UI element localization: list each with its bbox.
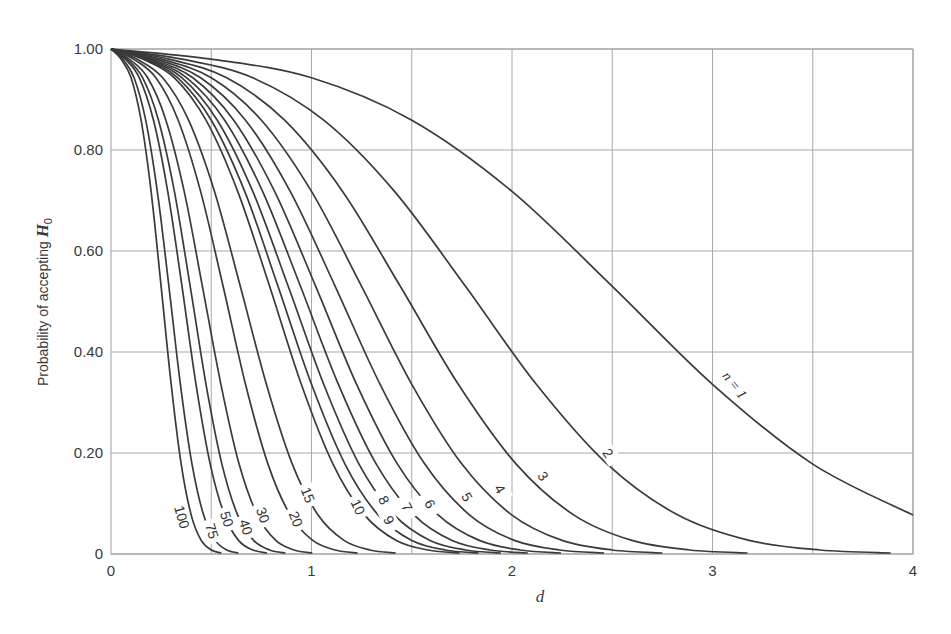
- curve-label-n-1: n = 1: [719, 369, 750, 402]
- x-tick-label: 0: [107, 562, 115, 579]
- y-tick-label: 1.00: [74, 40, 103, 57]
- oc-curve-n-9: [111, 49, 479, 553]
- y-tick-label: 0.60: [74, 242, 103, 259]
- curve-labels: n = 12345678910152030405075100: [171, 369, 750, 545]
- oc-curve-n-3: [111, 49, 748, 553]
- y-tick-label: 0.80: [74, 141, 103, 158]
- x-tick-label: 4: [909, 562, 917, 579]
- oc-curve-chart: n = 12345678910152030405075100 0123400.2…: [0, 0, 951, 634]
- y-axis-title: Probability of accepting H0: [33, 218, 54, 386]
- oc-curve-n-6: [111, 49, 561, 553]
- grid: [111, 49, 913, 554]
- x-tick-label: 3: [708, 562, 716, 579]
- oc-curve-n-7: [111, 49, 528, 553]
- oc-curve-n-20: [111, 49, 358, 553]
- x-tick-label: 2: [508, 562, 516, 579]
- oc-curve-n-40: [111, 49, 285, 553]
- y-tick-label: 0.20: [74, 444, 103, 461]
- axis-ticks: 0123400.200.400.600.801.00: [74, 40, 917, 579]
- x-tick-label: 1: [307, 562, 315, 579]
- x-axis-title: d: [536, 587, 545, 606]
- oc-curve-n-5: [111, 49, 604, 553]
- y-tick-label: 0: [95, 545, 103, 562]
- y-tick-label: 0.40: [74, 343, 103, 360]
